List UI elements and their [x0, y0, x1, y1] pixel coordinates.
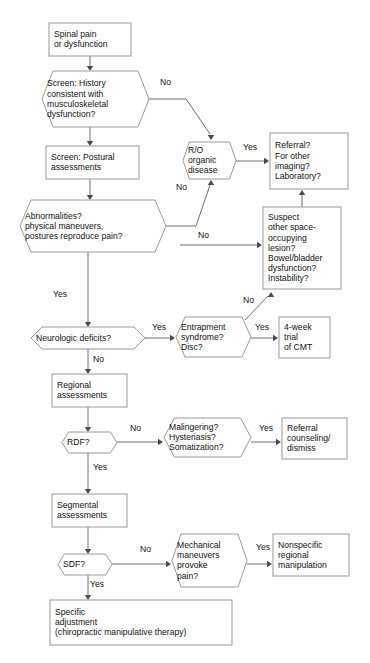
- node-label: Screen: History: [47, 78, 106, 88]
- node-nonspecific-manipulation[interactable]: Nonspecificregionalmanipulation: [273, 534, 349, 576]
- node-label: lesion?: [268, 243, 295, 253]
- node-abnormalities[interactable]: Abnormalities?physical maneuvers,posture…: [20, 200, 166, 252]
- node-label: Somatization?: [169, 442, 224, 452]
- connector-rdf-yes-to-segmental: [85, 453, 91, 494]
- node-ro-organic[interactable]: R/Oorganicdisease: [183, 142, 236, 179]
- node-label: Suspect: [268, 212, 300, 222]
- node-label: Instability?: [268, 273, 309, 283]
- node-label: Specific: [55, 607, 86, 617]
- node-specific-adjustment[interactable]: Specificadjustment(chiropractic manipula…: [50, 600, 232, 645]
- node-label: disease: [188, 165, 218, 175]
- node-label: Neurologic deficits?: [36, 333, 111, 343]
- connector-ro-no-to-suspect: [180, 242, 262, 248]
- node-label: assessments: [51, 162, 101, 172]
- node-four-week-cmt[interactable]: 4-weektrialof CMT: [279, 317, 330, 358]
- node-label: Hysteriasis?: [169, 432, 216, 442]
- node-label: RDF?: [67, 437, 90, 447]
- node-label: dismiss: [287, 443, 316, 453]
- node-label: physical maneuvers,: [25, 221, 103, 231]
- node-label: musculoskeletal: [47, 99, 108, 109]
- node-label: pain?: [177, 571, 198, 581]
- node-screen-history[interactable]: Screen: Historyconsistent withmusculoske…: [42, 71, 149, 127]
- clinical-decision-flowchart: Spinal painor dysfunctionScreen: History…: [0, 0, 370, 663]
- edge-label-history-no: No: [160, 77, 171, 87]
- node-label: or dysfunction: [54, 39, 108, 49]
- node-segmental-assessments[interactable]: Segmentalassessments: [52, 494, 127, 527]
- connector-suspect-to-referral: [299, 190, 305, 207]
- node-mechanical-maneuvers[interactable]: Mechanicalmaneuversprovokepain?: [172, 534, 247, 587]
- node-label: postures reproduce pain?: [25, 231, 123, 241]
- connector-postural-to-abnorm: [87, 179, 93, 200]
- connector-maling-yes-to-referral: [251, 439, 281, 445]
- node-referral-imaging[interactable]: Referral?For otherimaging?Laboratory?: [270, 133, 348, 189]
- connector-sdf-no-to-mech: [112, 561, 171, 567]
- node-label: consistent with: [47, 89, 104, 99]
- edge-label-neuro-no: No: [93, 354, 104, 364]
- connector-abnorm-no-to-ro: [166, 180, 214, 226]
- node-label: For other: [275, 151, 310, 161]
- connector-neuro-yes-to-entrap: [145, 335, 175, 341]
- node-referral-counseling[interactable]: Referralcounseling/dismiss: [282, 418, 347, 459]
- node-label: SDF?: [63, 559, 85, 569]
- edge-label-ro-yes: Yes: [243, 142, 257, 152]
- connector-abnorm-yes-to-neuro: [85, 252, 91, 327]
- connector-regional-to-rdf: [85, 407, 91, 432]
- node-label: organic: [188, 155, 217, 165]
- node-label: R/O: [188, 145, 204, 155]
- node-label: syndrome?: [181, 332, 224, 342]
- node-malingering[interactable]: Malingering?Hysteriasis?Somatization?: [164, 418, 251, 457]
- node-label: Nonspecific: [278, 540, 323, 550]
- node-entrapment[interactable]: Entrapmentsyndrome?Disc?: [176, 317, 251, 357]
- connector-ro-to-referral: [236, 158, 269, 164]
- node-label: assessments: [57, 390, 107, 400]
- connector-screen-to-postural: [87, 127, 93, 146]
- connector-mech-yes-to-nonspecific: [247, 561, 272, 567]
- edge-label-abnormalities-yes: Yes: [53, 289, 67, 299]
- connector-neuro-no-to-regional: [85, 349, 91, 374]
- connector-segmental-to-sdf: [85, 527, 91, 554]
- node-label: dysfunction?: [268, 263, 316, 273]
- node-screen-postural[interactable]: Screen: Posturalassessments: [46, 146, 139, 179]
- node-label: dysfunction?: [47, 109, 95, 119]
- node-label: Laboratory?: [275, 171, 321, 181]
- node-label: Screen: Postural: [51, 152, 115, 162]
- node-label: (chiropractic manipulative therapy): [55, 627, 186, 637]
- node-regional-assessments[interactable]: Regionalassessments: [52, 374, 127, 407]
- node-label: Disc?: [181, 342, 203, 352]
- edge-label-sdf-no: No: [140, 544, 151, 554]
- node-label: Entrapment: [181, 322, 226, 332]
- node-label: of CMT: [284, 342, 313, 352]
- node-label: counseling/: [287, 433, 331, 443]
- edge-label-suspect-no: No: [198, 230, 209, 240]
- connector-entrap-yes-to-cmt: [251, 335, 278, 341]
- edge-label-rdf-no: No: [130, 423, 141, 433]
- connector-spinal-to-screen: [87, 56, 93, 71]
- node-label: 4-week: [284, 322, 312, 332]
- node-label: provoke: [177, 560, 208, 570]
- node-label: adjustment: [55, 617, 98, 627]
- node-suspect-lesion[interactable]: Suspectother space-occupyinglesion?Bowel…: [263, 207, 341, 289]
- edge-label-sdf-yes: Yes: [90, 579, 104, 589]
- node-label: occupying: [268, 233, 307, 243]
- node-label: manipulation: [278, 560, 327, 570]
- node-label: Mechanical: [177, 540, 221, 550]
- node-rdf[interactable]: RDF?: [62, 432, 117, 453]
- edge-label-abnormalities-no: No: [176, 182, 187, 192]
- node-label: Abnormalities?: [25, 211, 82, 221]
- node-label: Referral?: [275, 140, 311, 150]
- node-label: imaging?: [275, 161, 310, 171]
- edge-label-rdf-yes: Yes: [93, 462, 107, 472]
- node-label: regional: [278, 550, 309, 560]
- node-label: trial: [284, 332, 298, 342]
- node-label: Bowel/bladder: [268, 253, 323, 263]
- edge-label-mech-yes: Yes: [256, 542, 270, 552]
- edge-label-entrapment-no: No: [243, 295, 254, 305]
- node-sdf[interactable]: SDF?: [58, 554, 112, 575]
- node-spinal-pain[interactable]: Spinal painor dysfunction: [49, 23, 131, 56]
- node-label: other space-: [268, 222, 316, 232]
- node-label: Segmental: [57, 500, 98, 510]
- flowchart-canvas: Spinal painor dysfunctionScreen: History…: [0, 0, 370, 663]
- node-neurologic-deficits[interactable]: Neurologic deficits?: [31, 327, 145, 349]
- nodes-layer: Spinal painor dysfunctionScreen: History…: [20, 23, 349, 645]
- node-label: Malingering?: [169, 422, 218, 432]
